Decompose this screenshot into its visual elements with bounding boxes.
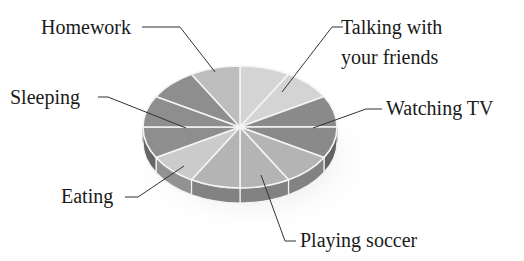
label-homework: Homework (41, 15, 131, 39)
label-playing-soccer: Playing soccer (300, 228, 417, 252)
label-talking-line2: your friends (341, 45, 438, 69)
pie-chart (0, 0, 524, 261)
label-eating: Eating (61, 184, 113, 208)
label-talking-line1: Talking with (341, 15, 442, 39)
label-sleeping: Sleeping (10, 85, 80, 109)
leader-homework (142, 27, 215, 72)
label-watching-tv: Watching TV (386, 96, 493, 120)
pie-top (143, 66, 337, 188)
